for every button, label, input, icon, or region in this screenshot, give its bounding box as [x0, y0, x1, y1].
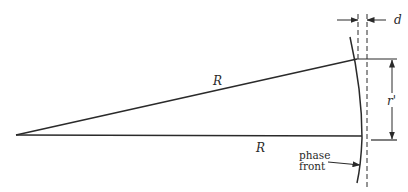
upper-radius-line [16, 59, 357, 135]
d-label: d [394, 13, 402, 27]
phase-front-label-line2: front [299, 160, 326, 172]
lower-radius-label: R [255, 141, 265, 155]
upper-radius-label: R [212, 74, 222, 88]
phase-front-pointer-arrow [328, 162, 360, 165]
r-prime-label: r' [387, 94, 396, 108]
lower-radius-line [16, 135, 362, 136]
wavefront-diagram: d r' R R phase front [0, 0, 408, 192]
